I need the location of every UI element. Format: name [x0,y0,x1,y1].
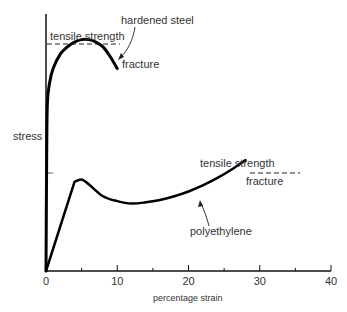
axes [46,14,331,271]
stress-strain-chart: 010203040 hardened steel tensile strengt… [0,0,347,312]
series-line-polyethylene [46,160,246,271]
annotation-fracture-polyethylene: fracture [246,175,283,187]
annotation-fracture-steel: fracture [122,58,159,70]
x-tick-label: 30 [254,275,266,287]
x-axis-label: percentage strain [153,293,223,303]
annotation-tensile-strength-steel: tensile strength [50,30,125,42]
x-ticks: 010203040 [43,265,337,287]
annotation-tensile-strength-polyethylene: tensile strength [200,157,275,169]
x-tick-label: 20 [182,275,194,287]
x-tick-label: 40 [325,275,337,287]
arrowhead-polyethylene [198,200,203,207]
x-tick-label: 0 [43,275,49,287]
x-tick-label: 10 [111,275,123,287]
y-axis-label: stress [13,130,43,142]
annotation-arrow-polyethylene [201,203,209,226]
annotation-hardened-steel: hardened steel [121,14,194,26]
annotation-polyethylene: polyethylene [190,225,252,237]
